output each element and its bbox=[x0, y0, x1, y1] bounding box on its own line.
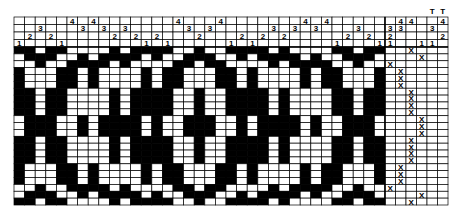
treadle-mark: X bbox=[409, 198, 415, 207]
drawdown-cell bbox=[120, 150, 131, 157]
treadling-cell bbox=[406, 54, 417, 61]
threading-cell bbox=[184, 40, 195, 48]
drawdown-cell bbox=[14, 157, 25, 164]
drawdown-cell bbox=[332, 123, 343, 130]
drawdown-cell bbox=[14, 150, 25, 157]
drawdown-cell bbox=[226, 102, 237, 109]
drawdown-cell bbox=[247, 47, 258, 54]
treadling-cell bbox=[396, 191, 407, 198]
drawdown-cell bbox=[152, 109, 163, 116]
drawdown-cell bbox=[215, 178, 226, 185]
drawdown-cell bbox=[120, 102, 131, 109]
drawdown-cell bbox=[332, 95, 343, 102]
drawdown-cell bbox=[162, 54, 173, 61]
drawdown-cell bbox=[141, 54, 152, 61]
drawdown-cell bbox=[162, 68, 173, 75]
drawdown-cell bbox=[205, 123, 216, 130]
drawdown-cell bbox=[290, 81, 301, 88]
drawdown-cell bbox=[374, 164, 385, 171]
drawdown-cell bbox=[364, 47, 375, 54]
drawdown-cell bbox=[194, 198, 205, 205]
drawdown-cell bbox=[364, 178, 375, 185]
drawdown-cell bbox=[88, 143, 99, 150]
drawdown-cell bbox=[374, 157, 385, 164]
drawdown-cell bbox=[152, 47, 163, 54]
treadling-cell bbox=[385, 47, 396, 54]
threading-cell bbox=[300, 32, 311, 40]
threading-cell bbox=[237, 17, 248, 25]
drawdown-cell bbox=[247, 136, 258, 143]
drawdown-cell bbox=[141, 109, 152, 116]
drawdown-cell bbox=[311, 171, 322, 178]
drawdown-cell bbox=[268, 109, 279, 116]
drawdown-cell bbox=[205, 102, 216, 109]
threading-cell bbox=[343, 40, 354, 48]
drawdown-cell bbox=[67, 102, 78, 109]
drawdown-cell bbox=[35, 150, 46, 157]
drawdown-cell bbox=[237, 171, 248, 178]
drawdown-cell bbox=[237, 116, 248, 123]
threading-number: 3 bbox=[38, 24, 43, 33]
drawdown-cell bbox=[343, 198, 354, 205]
drawdown-cell bbox=[173, 116, 184, 123]
treadling-cell bbox=[427, 74, 438, 81]
drawdown-cell bbox=[88, 61, 99, 68]
drawdown-cell bbox=[321, 95, 332, 102]
drawdown-cell bbox=[268, 123, 279, 130]
drawdown-cell bbox=[109, 102, 120, 109]
drawdown-cell bbox=[311, 191, 322, 198]
drawdown-cell bbox=[300, 191, 311, 198]
drawdown-cell bbox=[152, 191, 163, 198]
drawdown-cell bbox=[109, 116, 120, 123]
drawdown-cell bbox=[35, 136, 46, 143]
drawdown-cell bbox=[25, 184, 36, 191]
drawdown-cell bbox=[131, 191, 142, 198]
drawdown-cell bbox=[184, 47, 195, 54]
drawdown-cell bbox=[152, 68, 163, 75]
drawdown-cell bbox=[332, 54, 343, 61]
treadling-cell bbox=[385, 74, 396, 81]
drawdown-cell bbox=[35, 109, 46, 116]
drawdown-cell bbox=[46, 95, 57, 102]
drawdown-cell bbox=[290, 95, 301, 102]
drawdown-cell bbox=[88, 54, 99, 61]
drawdown-cell bbox=[35, 123, 46, 130]
drawdown-cell bbox=[173, 136, 184, 143]
drawdown-cell bbox=[321, 184, 332, 191]
drawdown-cell bbox=[364, 143, 375, 150]
drawdown-cell bbox=[364, 123, 375, 130]
threading-cell bbox=[311, 32, 322, 40]
drawdown-cell bbox=[152, 61, 163, 68]
drawdown-cell bbox=[99, 164, 110, 171]
threading-number: 3 bbox=[208, 24, 213, 33]
drawdown-cell bbox=[332, 164, 343, 171]
drawdown-cell bbox=[88, 109, 99, 116]
drawdown-cell bbox=[35, 184, 46, 191]
drawdown-cell bbox=[78, 184, 89, 191]
drawdown-cell bbox=[290, 109, 301, 116]
drawdown-cell bbox=[215, 129, 226, 136]
drawdown-cell bbox=[56, 68, 67, 75]
drawdown-cell bbox=[35, 81, 46, 88]
drawdown-cell bbox=[311, 68, 322, 75]
drawdown-cell bbox=[290, 68, 301, 75]
treadling-cell bbox=[427, 47, 438, 54]
drawdown-cell bbox=[141, 171, 152, 178]
drawdown-cell bbox=[184, 136, 195, 143]
drawdown-cell bbox=[109, 178, 120, 185]
treadling-cell bbox=[406, 61, 417, 68]
drawdown-cell bbox=[120, 129, 131, 136]
drawdown-cell bbox=[215, 143, 226, 150]
threading-cell bbox=[258, 17, 269, 25]
drawdown-cell bbox=[78, 54, 89, 61]
drawdown-cell bbox=[46, 198, 57, 205]
drawdown-cell bbox=[343, 157, 354, 164]
drawdown-cell bbox=[88, 47, 99, 54]
drawdown-cell bbox=[237, 143, 248, 150]
drawdown-cell bbox=[46, 129, 57, 136]
drawdown-cell bbox=[25, 150, 36, 157]
drawdown-cell bbox=[120, 95, 131, 102]
drawdown-cell bbox=[184, 198, 195, 205]
treadling-cell bbox=[396, 116, 407, 123]
drawdown-cell bbox=[258, 164, 269, 171]
